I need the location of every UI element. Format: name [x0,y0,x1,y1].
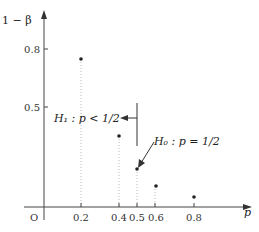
h0-arrow-icon [138,159,145,168]
ytick-label-05: 0.5 [24,102,40,113]
x-axis-label: p [244,206,251,219]
h1-arrow-icon [120,115,128,121]
xtick-label-05: 0.5 [129,212,145,223]
point-p08 [192,195,196,199]
xtick-label-04: 0.4 [111,212,127,223]
xtick-label-06: 0.6 [148,212,164,223]
xtick-label-02: 0.2 [73,212,89,223]
h0-label: H₀ : p = 1/2 [153,135,220,148]
h0-arrow-line [141,142,154,163]
power-function-chart: 0.8 0.5 0.2 0.4 0.5 0.6 0.8 O p 1 − β H₁… [0,0,259,232]
xtick-label-08: 0.8 [186,212,202,223]
ytick-label-08: 0.8 [24,44,40,55]
dotted-guides [81,59,155,207]
point-p02 [79,57,83,61]
y-axis-label: 1 − β [2,14,32,27]
origin-label: O [30,212,38,223]
point-p04 [117,134,121,138]
point-p06 [154,184,158,188]
h1-label: H₁ : p < 1/2 [53,112,120,125]
y-axis-arrow-icon [41,10,47,19]
